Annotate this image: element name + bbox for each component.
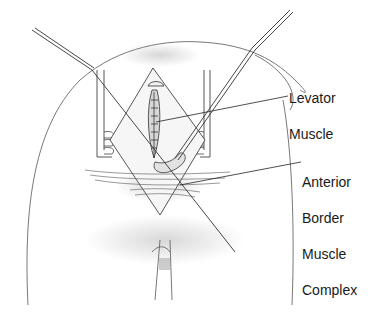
label-anterior-border-muscle-complex: Anterior Border Muscle Complex bbox=[302, 155, 357, 317]
label-line: Border bbox=[302, 209, 357, 227]
label-line: Complex bbox=[302, 281, 357, 299]
label-line: Muscle bbox=[289, 125, 336, 143]
label-line: Muscle bbox=[302, 245, 357, 263]
shading-upper bbox=[120, 43, 200, 67]
retractor-left bbox=[97, 70, 112, 157]
body-outline-right bbox=[255, 55, 293, 305]
label-line: Anterior bbox=[302, 173, 357, 191]
cleft-shade bbox=[159, 258, 170, 270]
shading-lower bbox=[85, 215, 245, 265]
label-line: Levator bbox=[289, 89, 336, 107]
illustration-canvas: Levator Muscle Anterior Border Muscle Co… bbox=[0, 0, 383, 322]
label-levator-muscle: Levator Muscle bbox=[289, 71, 336, 161]
